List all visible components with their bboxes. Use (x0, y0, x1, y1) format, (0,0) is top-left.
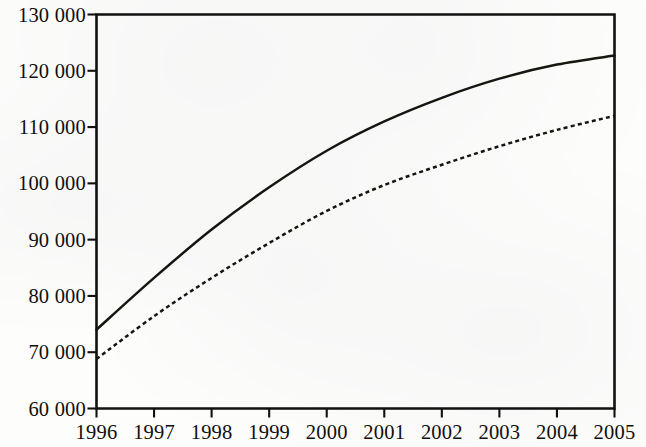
x-axis-label-2001: 2001 (363, 421, 405, 444)
x-axis-label-2003: 2003 (478, 421, 520, 444)
x-axis-label-2002: 2002 (421, 421, 463, 444)
x-axis-label-1999: 1999 (248, 421, 290, 444)
x-axis-label-2004: 2004 (536, 421, 578, 444)
x-axis-label-2005: 2005 (594, 421, 636, 444)
x-axis-label-1998: 1998 (191, 421, 233, 444)
line-chart-figure: 130 000120 000110 000100 00090 00080 000… (0, 0, 646, 447)
x-axis-label-2000: 2000 (306, 421, 348, 444)
x-axis-labels: 1996199719981999200020012002200320042005 (0, 0, 646, 447)
x-axis-label-1997: 1997 (133, 421, 175, 444)
x-axis-label-1996: 1996 (76, 421, 118, 444)
